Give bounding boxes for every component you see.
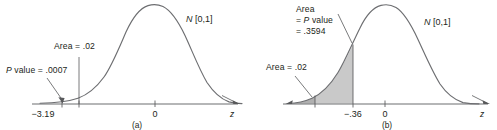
panel-a-area-label: Area = .02	[54, 41, 95, 51]
panel-a-pvalue-label: P value = .0007	[6, 65, 68, 75]
panel-a-xtick-label-1: −3.19	[32, 109, 55, 119]
panel-b-distribution-label-rest: [0,1]	[431, 17, 451, 27]
panel-b-pvalue-leader-line	[338, 14, 352, 43]
panel-b-area-label: Area = .02	[266, 62, 307, 72]
panel-a-axis-arrowhead	[233, 100, 241, 104]
panel-a-distribution-label: N [0,1]	[186, 14, 213, 24]
panel-b: Area = P value = .3594 Area = .02 N [0,1…	[266, 4, 490, 130]
panel-b-area-pvalue-line2: = P value	[296, 15, 333, 25]
panel-a-distribution-label-rest: [0,1]	[193, 14, 213, 24]
panel-b-axis-label: z	[479, 109, 485, 119]
panel-b-axis-left-arrowhead	[286, 100, 293, 104]
panel-a: Area = .02 P value = .0007 N [0,1] −3.19…	[6, 5, 242, 130]
figure-canvas: Area = .02 P value = .0007 N [0,1] −3.19…	[0, 0, 497, 130]
panel-b-axis-arrowhead	[483, 100, 491, 104]
panel-b-shade-pvalue-region	[288, 45, 353, 104]
panel-a-pvalue-arrowhead	[58, 97, 64, 103]
panel-a-pvalue-leader-line	[47, 78, 62, 100]
panel-b-axis-arrow-tail	[472, 96, 488, 104]
panel-b-area-pvalue-line3: = .3594	[296, 26, 326, 36]
panel-b-caption: (b)	[382, 120, 392, 130]
panel-a-pvalue-label-rest: value = .0007	[12, 65, 68, 75]
panel-a-xtick-label-2: 0	[152, 109, 157, 119]
panel-a-caption: (a)	[132, 120, 142, 130]
panel-b-xtick-label-2: 0	[382, 109, 387, 119]
panel-b-area-pvalue-line1: Area	[296, 4, 315, 14]
panel-a-axis-label: z	[229, 109, 235, 119]
panel-b-area-pvalue-line2-prefix: =	[296, 15, 304, 25]
panel-b-distribution-label: N [0,1]	[424, 17, 451, 27]
normal-distribution-figure: Area = .02 P value = .0007 N [0,1] −3.19…	[0, 0, 497, 130]
panel-b-alpha-leader-line	[295, 76, 312, 97]
panel-b-area-pvalue-line2-rest: value	[309, 15, 333, 25]
panel-b-xtick-label-1: −.36	[344, 109, 362, 119]
